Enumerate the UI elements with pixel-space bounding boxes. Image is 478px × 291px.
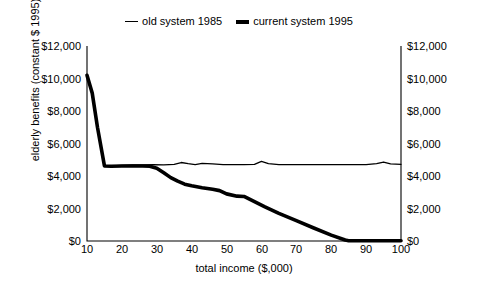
axis-frame bbox=[87, 46, 401, 241]
series-line-old-system-1985 bbox=[87, 75, 401, 166]
plot-area bbox=[0, 0, 478, 291]
series-line-current-system-1995 bbox=[87, 75, 401, 240]
chart-container: old system 1985 current system 1995 elde… bbox=[0, 0, 478, 291]
